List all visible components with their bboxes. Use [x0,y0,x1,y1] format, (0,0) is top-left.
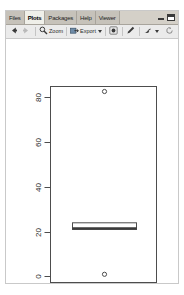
clear-all-plots-button[interactable] [125,26,137,37]
tab-help-label: Help [80,15,92,21]
plots-pane-screenshot: Files Plots Packages Help Viewer [0,0,184,295]
toolbar-separator [139,27,140,36]
remove-plot-icon [109,26,118,37]
refresh-icon [165,26,174,37]
clear-all-plots-icon [126,26,135,37]
toolbar-separator [35,27,36,36]
arrow-left-icon [9,26,18,37]
previous-plot-button[interactable] [8,26,20,37]
arrow-right-icon [22,26,31,37]
figure-background [6,40,178,283]
export-icon [70,26,79,37]
plot-canvas[interactable]: 80 60 40 20 0 [6,40,178,283]
tab-strip-filler [120,11,157,24]
y-tick-label-0: 0 [34,274,43,279]
publish-icon [143,26,152,37]
tab-help[interactable]: Help [77,11,96,24]
tab-files-label: Files [9,15,21,21]
toolbar-separator [105,27,106,36]
boxplot-figure: 80 60 40 20 0 [6,40,178,283]
y-tick-label-60: 60 [34,138,43,147]
maximize-pane-icon[interactable] [167,14,175,21]
tab-viewer-label: Viewer [99,15,116,21]
refresh-plot-button[interactable] [164,26,176,37]
magnifier-icon [39,26,48,37]
publish-button[interactable] [142,26,160,37]
toolbar-separator [66,27,67,36]
minimize-pane-icon[interactable] [157,14,165,21]
tab-files[interactable]: Files [6,11,25,24]
export-button[interactable]: Export [69,26,103,37]
zoom-button[interactable]: Zoom [38,26,64,37]
pane-tab-strip: Files Plots Packages Help Viewer [6,11,178,25]
zoom-label: Zoom [49,29,63,35]
remove-plot-button[interactable] [108,26,120,37]
tab-plots[interactable]: Plots [25,11,46,24]
tab-plots-label: Plots [28,15,42,21]
window-controls [157,11,178,24]
export-label: Export [80,29,96,35]
tab-packages-label: Packages [48,15,73,21]
toolbar-separator [122,27,123,36]
next-plot-button[interactable] [21,26,33,37]
chevron-down-icon [98,30,102,33]
y-tick-label-40: 40 [34,183,43,192]
plots-toolbar: Zoom Export [6,25,178,39]
chevron-down-icon [155,30,159,33]
tab-viewer[interactable]: Viewer [96,11,120,24]
y-tick-label-80: 80 [34,93,43,102]
plots-pane-window: Files Plots Packages Help Viewer [5,10,179,284]
y-tick-label-20: 20 [34,228,43,237]
tab-packages[interactable]: Packages [45,11,77,24]
